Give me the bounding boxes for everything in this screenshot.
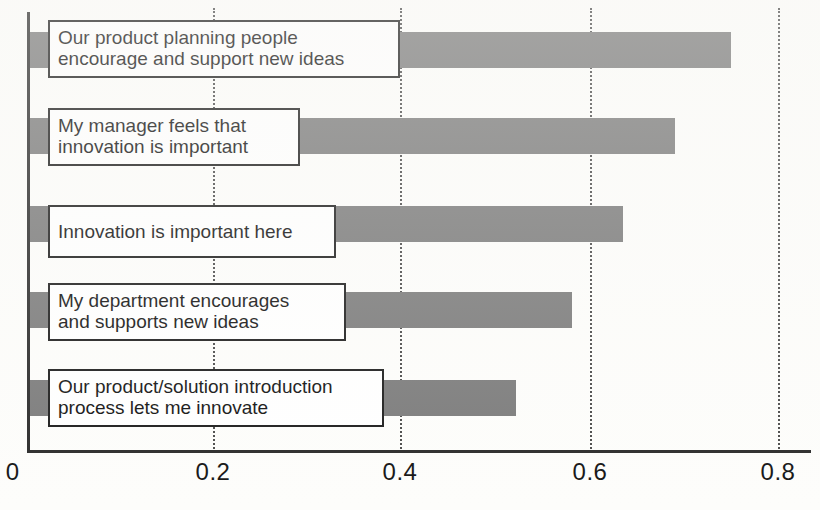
x-tick-label-0.4: 0.4 [383, 458, 418, 486]
gridline-0.8 [778, 8, 780, 452]
x-tick-label-0.8: 0.8 [761, 458, 796, 486]
y-axis-line [27, 12, 30, 452]
x-tick-label-0.2: 0.2 [196, 458, 231, 486]
bar-label-3: Innovation is important here [48, 205, 336, 258]
x-tick-label-0: 0 [6, 458, 20, 486]
bar-label-5: Our product/solution introduction proces… [48, 369, 384, 427]
x-tick-label-0.6: 0.6 [573, 458, 608, 486]
bar-chart: Our product planning people encourage an… [0, 0, 820, 510]
x-axis-line [27, 450, 811, 453]
bar-label-2: My manager feels that innovation is impo… [48, 108, 300, 166]
bar-label-1: Our product planning people encourage an… [48, 20, 400, 78]
bar-label-4: My department encourages and supports ne… [48, 283, 346, 341]
